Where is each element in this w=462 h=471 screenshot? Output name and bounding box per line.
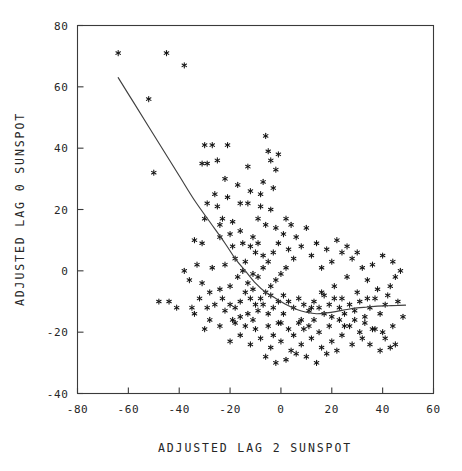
scatter-point xyxy=(218,222,223,227)
scatter-point xyxy=(391,259,396,264)
x-tick-label: -60 xyxy=(118,403,140,416)
scatter-point xyxy=(238,201,243,206)
scatter-point xyxy=(380,330,385,335)
scatter-point xyxy=(332,296,337,301)
scatter-point xyxy=(317,305,322,310)
scatter-point xyxy=(248,244,253,249)
scatter-point xyxy=(324,351,329,356)
y-axis-ticks xyxy=(78,26,84,394)
scatter-point xyxy=(266,311,271,316)
scatter-point xyxy=(152,170,157,175)
scatter-point xyxy=(296,296,301,301)
chart-figure: -80-60-40-200204060 -40-20020406080 ADJU… xyxy=(0,0,462,471)
scatter-point xyxy=(327,302,332,307)
scatter-point xyxy=(309,305,314,310)
scatter-point xyxy=(207,317,212,322)
scatter-point xyxy=(146,97,151,102)
scatter-point xyxy=(241,241,246,246)
scatter-point xyxy=(238,228,243,233)
scatter-point xyxy=(251,235,256,240)
scatter-point xyxy=(210,265,215,270)
scatter-point xyxy=(401,314,406,319)
scatter-point xyxy=(269,158,274,163)
scatter-point xyxy=(253,327,258,332)
scatter-point xyxy=(319,265,324,270)
scatter-point xyxy=(251,287,256,292)
scatter-point xyxy=(263,354,268,359)
y-axis-title: ADJUSTED LAG 0 SUNSPOT xyxy=(13,112,27,306)
scatter-point xyxy=(281,231,286,236)
scatter-point xyxy=(256,216,261,221)
scatter-point xyxy=(368,305,373,310)
scatter-point xyxy=(258,192,263,197)
scatter-point xyxy=(380,253,385,258)
scatter-point xyxy=(284,216,289,221)
scatter-point xyxy=(340,250,345,255)
scatter-point xyxy=(213,192,218,197)
scatter-point xyxy=(335,238,340,243)
scatter-point xyxy=(358,299,363,304)
scatter-point xyxy=(355,290,360,295)
scatter-point xyxy=(190,305,195,310)
scatter-point xyxy=(363,320,368,325)
scatter-point xyxy=(215,204,220,209)
scatter-point xyxy=(253,302,258,307)
scatter-point xyxy=(337,305,342,310)
scatter-point xyxy=(248,189,253,194)
scatter-point xyxy=(302,327,307,332)
scatter-point xyxy=(223,308,228,313)
scatter-point xyxy=(167,299,172,304)
scatter-point xyxy=(207,290,212,295)
scatter-point xyxy=(340,333,345,338)
scatter-point xyxy=(164,51,169,56)
scatter-point xyxy=(289,222,294,227)
fitted-curve xyxy=(118,78,405,314)
scatter-point xyxy=(289,348,294,353)
scatter-point xyxy=(330,314,335,319)
scatter-point xyxy=(317,330,322,335)
scatter-point xyxy=(375,287,380,292)
scatter-point xyxy=(274,225,279,230)
scatter-point xyxy=(266,259,271,264)
scatter-point xyxy=(213,302,218,307)
scatter-point xyxy=(187,277,192,282)
scatter-point xyxy=(192,311,197,316)
scatter-point xyxy=(243,323,248,328)
scatter-point xyxy=(246,164,251,169)
scatter-point xyxy=(271,185,276,190)
scatter-point xyxy=(302,302,307,307)
plot-frame xyxy=(78,26,434,394)
scatter-point xyxy=(253,250,258,255)
scatter-point xyxy=(223,176,228,181)
scatter-point xyxy=(281,311,286,316)
scatter-point xyxy=(370,262,375,267)
scatter-point xyxy=(286,299,291,304)
scatter-point xyxy=(299,317,304,322)
scatter-point xyxy=(388,345,393,350)
scatter-point xyxy=(261,265,266,270)
scatter-point xyxy=(337,317,342,322)
scatter-point xyxy=(258,204,263,209)
scatter-point xyxy=(360,265,365,270)
scatter-point xyxy=(294,351,299,356)
scatter-point xyxy=(284,357,289,362)
scatter-point xyxy=(256,308,261,313)
scatter-point xyxy=(299,342,304,347)
x-axis-tick-labels: -80-60-40-200204060 xyxy=(67,403,441,416)
scatter-point xyxy=(269,207,274,212)
scatter-point xyxy=(304,354,309,359)
scatter-point xyxy=(304,225,309,230)
scatter-point xyxy=(307,323,312,328)
scatter-point xyxy=(378,311,383,316)
scatter-point xyxy=(368,342,373,347)
scatter-point xyxy=(220,296,225,301)
scatter-point xyxy=(393,274,398,279)
scatter-point xyxy=(294,235,299,240)
y-tick-label: 20 xyxy=(54,204,68,217)
scatter-point xyxy=(279,339,284,344)
scatter-point xyxy=(279,271,284,276)
scatter-point xyxy=(228,231,233,236)
scatter-point xyxy=(363,314,368,319)
x-tick-label: 20 xyxy=(325,403,339,416)
scatter-point xyxy=(263,222,268,227)
